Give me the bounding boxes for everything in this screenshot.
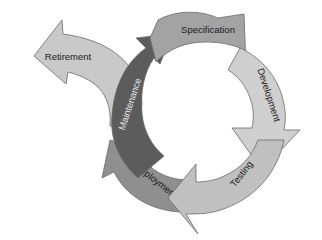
testing-arrow: Testing xyxy=(168,140,284,234)
specification-arrow: Specification xyxy=(150,12,246,70)
specification-label: Specification xyxy=(181,24,235,35)
lifecycle-diagram: Retirement Deployment Maintenance Specif… xyxy=(0,0,322,240)
retirement-label: Retirement xyxy=(45,51,92,62)
